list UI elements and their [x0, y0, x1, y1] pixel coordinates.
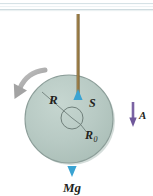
radius-R0-subscript: 0	[94, 135, 98, 144]
tension-S-label: S	[89, 96, 96, 110]
vertical-rod	[77, 14, 80, 96]
page-edge-line	[0, 3, 153, 11]
weight-Mg-label: Mg	[62, 180, 82, 195]
acceleration-arrow	[129, 102, 136, 127]
disk-body	[25, 75, 113, 163]
diagram-canvas: R R 0 S A Mg	[0, 0, 153, 196]
radius-R-label: R	[48, 92, 58, 107]
acceleration-A-label: A	[138, 109, 146, 121]
physics-diagram-figure: R R 0 S A Mg	[0, 0, 153, 196]
radius-R0-base: R	[84, 128, 93, 142]
